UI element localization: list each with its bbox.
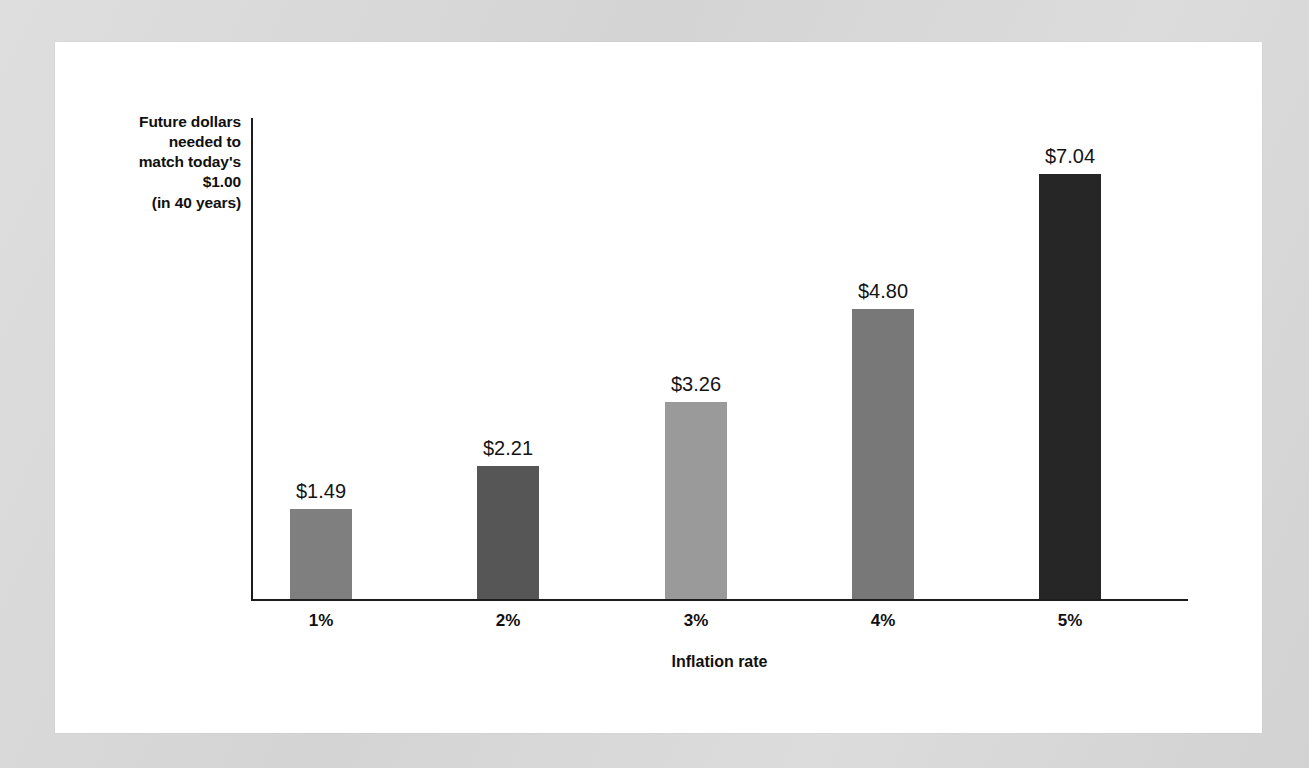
x-tick-label: 3% <box>633 611 759 631</box>
y-axis-title-line-1: Future dollars <box>65 112 241 132</box>
bar-chart: Future dollars needed to match today's $… <box>55 42 1262 733</box>
x-axis-title: Inflation rate <box>251 653 1188 671</box>
bar[interactable] <box>665 402 727 599</box>
figure-panel: Future dollars needed to match today's $… <box>55 42 1262 733</box>
x-tick-label: 1% <box>258 611 384 631</box>
y-axis-title-line-3: match today's <box>65 152 241 172</box>
bar-value-label: $1.49 <box>258 480 384 503</box>
x-axis-line <box>251 599 1188 601</box>
bar-value-label: $3.26 <box>633 373 759 396</box>
bar-value-label: $7.04 <box>1007 145 1133 168</box>
bar-value-label: $4.80 <box>820 280 946 303</box>
x-tick-label: 2% <box>445 611 571 631</box>
bar[interactable] <box>477 466 539 599</box>
bar-value-label: $2.21 <box>445 437 571 460</box>
y-axis-title-line-5: (in 40 years) <box>65 193 241 213</box>
x-tick-label: 5% <box>1007 611 1133 631</box>
x-tick-label: 4% <box>820 611 946 631</box>
bar[interactable] <box>852 309 914 599</box>
y-axis-title-line-4: $1.00 <box>65 172 241 192</box>
bar[interactable] <box>1039 174 1101 599</box>
y-axis-title-line-2: needed to <box>65 132 241 152</box>
y-axis-title: Future dollars needed to match today's $… <box>65 112 241 213</box>
bar[interactable] <box>290 509 352 599</box>
y-axis-line <box>251 118 253 601</box>
